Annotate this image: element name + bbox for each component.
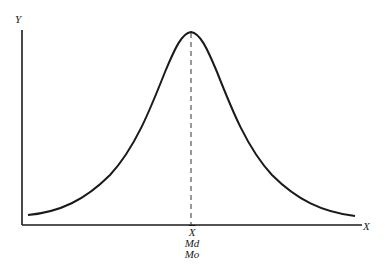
- x-axis-label: X: [363, 221, 370, 232]
- mode-label: Mo: [181, 249, 203, 260]
- central-tendency-labels: X Md Mo: [181, 227, 203, 260]
- normal-distribution-figure: Y X X Md Mo: [0, 0, 386, 269]
- y-axis-label: Y: [15, 14, 21, 25]
